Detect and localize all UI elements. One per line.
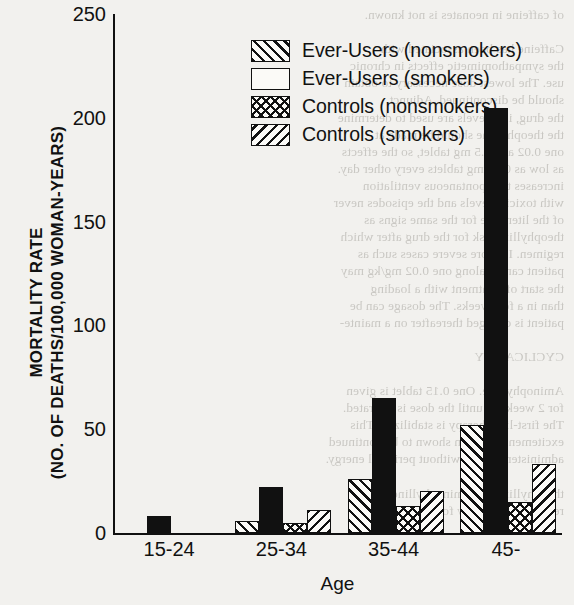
x-tick-label-45: 45-	[491, 538, 520, 561]
y-axis-title-line2: (NO. OF DEATHS/100,000 WOMAN-YEARS)	[47, 126, 68, 479]
bar-35-44-series-1	[348, 479, 372, 533]
bar-45-series-1	[460, 425, 484, 533]
x-tick-label-15-24: 15-24	[144, 538, 195, 561]
bar-15-24-series-2	[147, 516, 171, 533]
bar-groups	[115, 14, 562, 533]
x-tick-label-35-44: 35-44	[368, 538, 419, 561]
y-tick-0: 0	[95, 522, 115, 545]
bar-25-34-series-1	[235, 521, 259, 534]
y-tick-150: 150	[73, 210, 115, 233]
bar-45-series-4	[532, 464, 556, 533]
figure-bar-chart: MORTALITY RATE (NO. OF DEATHS/100,000 WO…	[0, 0, 574, 605]
y-tick-100: 100	[73, 314, 115, 337]
y-tick-250: 250	[73, 3, 115, 26]
x-axis-title: Age	[113, 573, 562, 595]
bar-45-series-3	[508, 502, 532, 533]
bar-25-34-series-2	[259, 487, 283, 533]
bar-35-44-series-2	[372, 398, 396, 533]
bar-group-45	[452, 14, 564, 533]
bar-45-series-2	[484, 108, 508, 533]
bar-25-34-series-4	[307, 510, 331, 533]
bar-group-15-24	[115, 14, 227, 533]
bar-25-34-series-3	[283, 523, 307, 533]
y-tick-200: 200	[73, 106, 115, 129]
bar-35-44-series-4	[420, 491, 444, 533]
x-tick-label-25-34: 25-34	[256, 538, 307, 561]
y-tick-50: 50	[84, 418, 115, 441]
plot-area: 250 200 150 100 50 0 Ever-Users (nonsmok…	[113, 14, 562, 535]
y-axis-title-line1: MORTALITY RATE	[26, 227, 47, 377]
bar-group-35-44	[340, 14, 452, 533]
bar-35-44-series-3	[396, 506, 420, 533]
bar-group-25-34	[227, 14, 339, 533]
